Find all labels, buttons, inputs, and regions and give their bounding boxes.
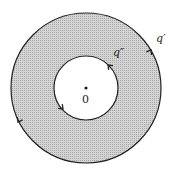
inner-contour-label: q″ <box>113 46 125 59</box>
origin-point <box>84 86 87 89</box>
outer-contour-label: q′ <box>156 32 166 45</box>
origin-label: 0 <box>82 93 89 106</box>
annulus-diagram: 0 q′ q″ <box>0 0 174 170</box>
